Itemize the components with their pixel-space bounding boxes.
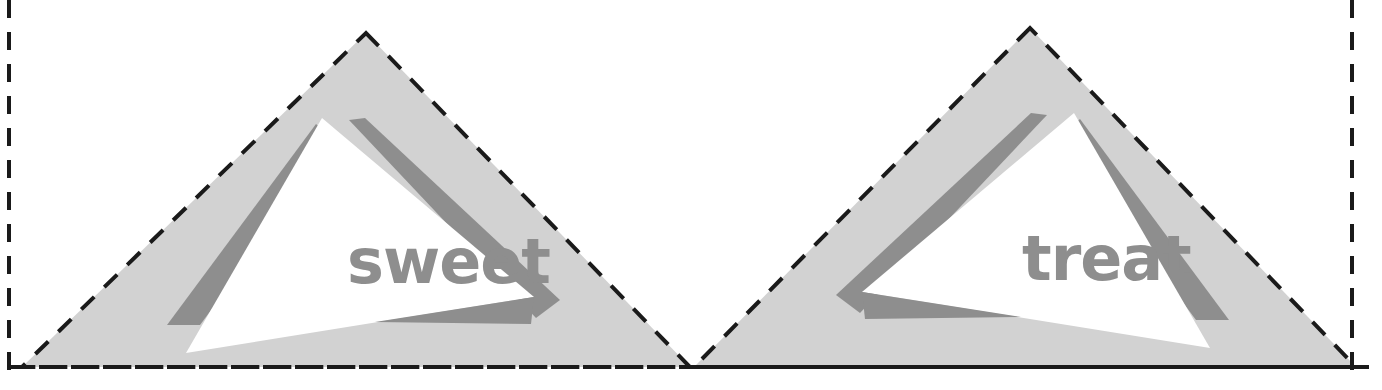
artboard-svg: sweet treat	[0, 0, 1382, 390]
sticker-sheet-canvas: sweet treat	[0, 0, 1382, 390]
treat-triangle-logo[interactable]	[694, 28, 1356, 367]
sweet-word-text: sweet	[347, 225, 550, 298]
treat-word-text: treat	[1022, 222, 1191, 295]
sweet-triangle-logo[interactable]: sweet	[22, 33, 690, 367]
